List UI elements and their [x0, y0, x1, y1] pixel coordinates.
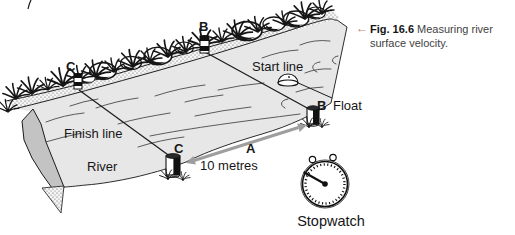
label-marker-b-far: B: [199, 19, 208, 34]
label-marker-c-near: C: [174, 141, 184, 156]
label-finish-line: Finish line: [64, 126, 123, 141]
figure-caption: ← Fig. 16.6 Measuring river surface velo…: [356, 23, 508, 50]
label-distance: 10 metres: [200, 158, 258, 173]
label-stopwatch: Stopwatch: [297, 213, 365, 229]
figure-number: Fig. 16.6: [370, 23, 414, 35]
ranging-pole-b-far: [200, 35, 209, 53]
bank-cut-tip: [42, 186, 64, 213]
caption-arrow-icon: ←: [356, 22, 368, 36]
ranging-pole-c-far: [74, 73, 82, 89]
label-float: Float: [333, 98, 362, 113]
label-start-line: Start line: [252, 59, 303, 74]
label-river: River: [87, 159, 118, 174]
label-marker-b-near: B: [317, 98, 326, 113]
label-marker-c-far: C: [66, 59, 76, 74]
figure-measuring-river-velocity: Start line Finish line River Float B C B…: [0, 0, 515, 235]
label-segment-a: A: [246, 141, 256, 156]
stopwatch-icon: [301, 154, 349, 208]
